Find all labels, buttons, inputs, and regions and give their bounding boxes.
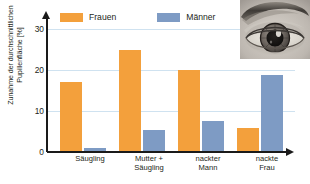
legend: Frauen Männer	[60, 12, 215, 22]
y-tick-label-10: 10	[24, 106, 44, 116]
bar-frauen-nackter-mann	[178, 70, 200, 152]
bar-maenner-nackte-frau	[261, 75, 283, 152]
x-tick-label-nackte-frau: nackte Frau	[237, 155, 297, 173]
legend-item-frauen: Frauen	[60, 12, 116, 22]
y-axis-arrow-icon	[42, 11, 50, 19]
x-tick-label-saeugling: Säugling	[60, 155, 120, 164]
x-tick-label-mutter-saeugling: Mutter + Säugling	[119, 155, 179, 173]
human-eye-dilated-pupil-photo	[240, 0, 310, 59]
legend-label-frauen: Frauen	[89, 12, 116, 22]
y-axis-title: Zunahme der durchschnittlichen Pupillenf…	[7, 0, 25, 125]
bar-frauen-nackte-frau	[237, 128, 259, 152]
legend-item-maenner: Männer	[157, 12, 215, 22]
pupil-dilation-bar-chart: Zunahme der durchschnittlichen Pupillenf…	[0, 0, 310, 184]
gridline-10	[47, 111, 295, 112]
legend-label-maenner: Männer	[186, 12, 215, 22]
y-tick-label-0: 0	[24, 147, 44, 157]
y-tick-label-30: 30	[24, 24, 44, 34]
x-tick-label-nackter-mann: nackter Mann	[178, 155, 238, 173]
y-tick-label-20: 20	[24, 65, 44, 75]
bar-frauen-mutter-saeugling	[119, 50, 141, 153]
bar-maenner-mutter-saeugling	[143, 130, 165, 152]
x-axis-line	[47, 151, 287, 153]
y-axis-line	[46, 18, 48, 152]
legend-swatch-frauen-icon	[60, 13, 83, 22]
gridline-20	[47, 70, 295, 71]
legend-swatch-maenner-icon	[157, 13, 180, 22]
bar-maenner-nackter-mann	[202, 121, 224, 152]
bar-frauen-saeugling	[60, 82, 82, 152]
